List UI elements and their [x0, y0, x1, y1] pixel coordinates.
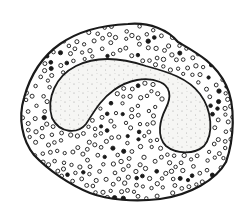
granule [178, 51, 182, 55]
granule [209, 104, 213, 108]
granule [217, 100, 221, 104]
granule [141, 174, 145, 178]
granule [121, 112, 124, 115]
granule [152, 36, 156, 40]
granule [109, 101, 113, 105]
granule [186, 178, 189, 181]
granule [211, 112, 215, 116]
granule [136, 84, 140, 88]
cell-drawing [0, 0, 251, 206]
granule [178, 176, 182, 180]
granule [217, 89, 221, 93]
granule [216, 107, 220, 111]
granule [42, 115, 46, 119]
granule [137, 130, 141, 134]
granule [155, 169, 159, 173]
granule [99, 125, 102, 128]
granule [146, 39, 150, 43]
granule [126, 134, 129, 137]
granule [105, 112, 109, 116]
granule [82, 171, 85, 174]
granule [136, 53, 139, 56]
granule [103, 155, 106, 158]
granule [190, 174, 194, 178]
granule [65, 61, 69, 65]
granule [58, 51, 62, 55]
granule [49, 60, 53, 64]
granule [111, 146, 115, 150]
granule [49, 66, 53, 70]
granule [105, 129, 109, 133]
granule [122, 149, 126, 153]
granule [207, 76, 210, 79]
granule [135, 176, 139, 180]
granule [66, 173, 70, 177]
granule [137, 138, 140, 141]
